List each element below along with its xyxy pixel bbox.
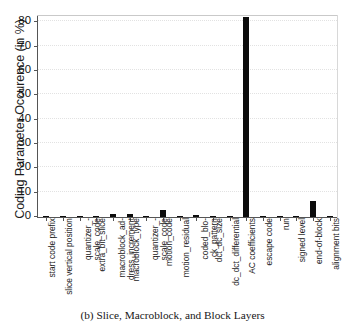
x-tick-label-line: extra_bit_slice: [98, 218, 107, 272]
x-tick-label: signed level: [298, 218, 307, 262]
bar: [243, 17, 249, 217]
plot-frame-right: [337, 15, 338, 218]
y-gridline: [38, 69, 337, 71]
y-gridline: [38, 191, 337, 193]
y-gridline: [38, 166, 337, 168]
figure-panel: Coding Parameter Occurence (in %) 010203…: [0, 0, 345, 328]
y-tick-label: 60: [18, 63, 31, 76]
plot-frame-top: [37, 15, 338, 16]
x-tick-label-line: end-of-block: [315, 218, 324, 264]
x-tick-label-line: macroblock_type: [132, 218, 141, 281]
x-tick-label: slice vertical position: [65, 218, 74, 295]
y-tick: 0: [34, 216, 38, 217]
x-tick-label: motion_residual: [182, 218, 191, 277]
x-tick-label-line: alignment bits: [332, 218, 341, 270]
y-gridline: [38, 45, 337, 47]
x-tick-label: AC coefficients: [248, 218, 257, 274]
figure-caption: (b) Slice, Macroblock, and Block Layers: [0, 309, 345, 321]
plot-area: 01020304050607080: [37, 16, 337, 218]
x-tick-label: dc_dct_differential: [232, 218, 241, 286]
x-tick-label-line: escape code: [265, 218, 274, 266]
x-tick-label: dct_dc_size: [215, 218, 224, 262]
x-tick-label: extra_bit_slice: [98, 218, 107, 272]
x-tick-label: escape code: [265, 218, 274, 266]
x-tick-label-line: start code prefix: [48, 218, 57, 278]
x-tick-label-line: motion_residual: [182, 218, 191, 277]
x-tick-label-line: run: [282, 218, 291, 230]
x-tick-label-line: slice vertical position: [65, 218, 74, 295]
y-tick-label: 40: [18, 112, 31, 125]
x-tick-label-line: dct_dc_size: [215, 218, 224, 262]
y-gridline: [38, 93, 337, 95]
x-tick-label-line: dc_dct_differential: [232, 218, 241, 286]
y-gridline: [38, 142, 337, 144]
y-tick-label: 10: [18, 185, 31, 198]
x-tick-label: start code prefix: [48, 218, 57, 278]
x-tick-label: run: [282, 218, 291, 230]
y-tick-label: 30: [18, 136, 31, 149]
x-tick-label-line: motion_code: [165, 218, 174, 266]
y-gridline: [38, 20, 337, 22]
x-tick-label: motion_code: [165, 218, 174, 266]
bar: [310, 201, 316, 217]
x-axis-tick-labels: start code prefixslice vertical position…: [37, 218, 337, 304]
y-tick-label: 80: [18, 14, 31, 27]
x-tick-label: end-of-block: [315, 218, 324, 264]
x-tick-label: alignment bits: [332, 218, 341, 270]
y-tick-label: 70: [18, 39, 31, 52]
y-tick-label: 20: [18, 160, 31, 173]
y-tick-label: 0: [25, 209, 31, 222]
x-tick-label: macroblock_type: [132, 218, 141, 281]
x-tick-label-line: AC coefficients: [248, 218, 257, 274]
y-tick-label: 50: [18, 87, 31, 100]
x-tick-label-line: signed level: [298, 218, 307, 262]
y-gridline: [38, 118, 337, 120]
